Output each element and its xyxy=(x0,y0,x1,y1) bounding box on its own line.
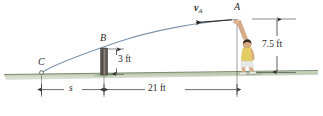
point-c-label: C xyxy=(38,57,45,67)
point-b-label: B xyxy=(100,33,106,43)
point-c-marker xyxy=(40,71,44,75)
figure-canvas xyxy=(0,0,323,116)
point-a-label: A xyxy=(234,2,240,12)
velocity-vector-label: vA xyxy=(194,3,202,13)
post-b xyxy=(101,48,108,76)
dimension-label-21ft: 21 ft xyxy=(148,84,166,94)
velocity-vector-arrow xyxy=(196,20,232,23)
ground-surface xyxy=(4,71,318,80)
velocity-subscript: A xyxy=(198,7,202,14)
dimension-21ft xyxy=(105,84,238,95)
dimension-label-3ft: 3 ft xyxy=(118,55,131,65)
projectile-trajectory-figure: A B C vA 3 ft 7.5 ft s 21 ft xyxy=(0,0,323,116)
dimension-label-s: s xyxy=(69,84,73,94)
trajectory-curve xyxy=(42,20,237,73)
dimension-label-7p5ft: 7.5 ft xyxy=(262,40,282,50)
